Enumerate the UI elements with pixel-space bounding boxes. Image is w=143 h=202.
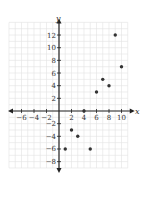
y-tick-label: −2: [46, 120, 56, 128]
data-point: [64, 147, 67, 150]
y-tick-label: −6: [46, 145, 57, 153]
y-axis-label: y: [55, 14, 61, 23]
x-axis-right-arrow-icon: [130, 109, 135, 114]
tick-labels: −6−4−2246810−8−6−4−224681012: [16, 32, 126, 167]
data-point: [76, 135, 79, 138]
data-point: [82, 109, 85, 112]
data-point: [107, 84, 110, 87]
x-axis-label: x: [135, 107, 140, 116]
x-tick-label: 6: [94, 114, 99, 122]
y-tick-label: 12: [47, 32, 56, 40]
x-tick-label: −4: [29, 114, 40, 122]
data-point: [101, 78, 104, 81]
y-tick-label: 10: [47, 44, 56, 52]
data-point: [70, 128, 73, 131]
y-tick-label: 4: [52, 82, 57, 90]
x-tick-label: 2: [69, 114, 73, 122]
x-tick-label: 10: [117, 114, 126, 122]
scatter-plot: −6−4−2246810−8−6−4−224681012 x y: [0, 0, 143, 202]
x-tick-label: 4: [82, 114, 87, 122]
grid-lines: [9, 22, 128, 168]
data-point: [114, 33, 117, 36]
x-tick-label: −6: [16, 114, 27, 122]
data-point: [95, 90, 98, 93]
y-tick-label: 2: [52, 95, 56, 103]
data-point: [89, 147, 92, 150]
data-point: [120, 65, 123, 68]
y-axis-down-arrow-icon: [57, 168, 62, 173]
y-tick-label: 6: [52, 70, 57, 78]
y-tick-label: 8: [52, 57, 56, 65]
x-tick-label: 8: [107, 114, 111, 122]
y-tick-label: −4: [46, 133, 57, 141]
y-tick-label: −8: [46, 158, 56, 166]
